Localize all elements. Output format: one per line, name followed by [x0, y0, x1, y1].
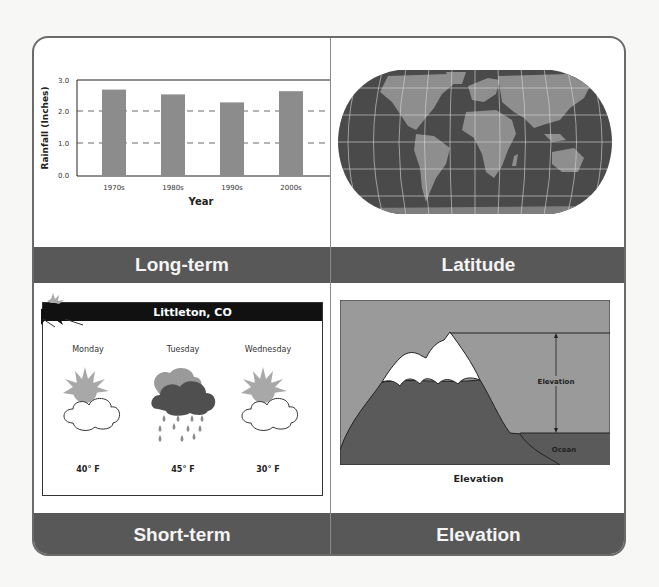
rain-cloud-icon [148, 365, 218, 445]
day-wednesday: Wednesday [228, 345, 308, 354]
temp-monday: 40° F [48, 465, 128, 474]
rainfall-bar-chart: 3.0 2.0 1.0 0.0 1970s 1980s 1990s 2000s … [34, 38, 330, 243]
partly-cloudy-icon [55, 365, 125, 445]
ytick-3: 3.0 [58, 77, 69, 85]
y-axis-label: Rainfall (Inches) [40, 87, 50, 170]
temp-wednesday: 30° F [228, 465, 308, 474]
label-long-term: Long-term [34, 247, 330, 283]
branch-sun-icon [35, 289, 95, 329]
xtick-1970s: 1970s [103, 184, 125, 192]
elevation-diagram: Elevation Ocean [340, 300, 610, 465]
ytick-0: 0.0 [58, 172, 69, 180]
label-elevation: Elevation [331, 513, 626, 556]
day-tuesday: Tuesday [143, 345, 223, 354]
world-map [338, 68, 612, 216]
x-axis-label: Year [188, 196, 214, 207]
partly-cloudy-icon [233, 365, 303, 445]
xtick-2000s: 2000s [280, 184, 302, 192]
ytick-1: 1.0 [58, 140, 69, 148]
ocean-label: Ocean [552, 446, 577, 454]
xtick-1990s: 1990s [221, 184, 243, 192]
weather-forecast: Littleton, CO Monday Tuesday Wednesday [42, 302, 323, 496]
xtick-1980s: 1980s [162, 184, 184, 192]
center-divider [330, 38, 331, 554]
label-latitude: Latitude [331, 247, 626, 283]
elevation-caption: Elevation [331, 473, 626, 484]
climate-factors-frame: 3.0 2.0 1.0 0.0 1970s 1980s 1990s 2000s … [32, 36, 626, 556]
elevation-arrow-label: Elevation [538, 378, 575, 386]
temp-tuesday: 45° F [143, 465, 223, 474]
label-short-term: Short-term [34, 513, 330, 556]
day-monday: Monday [48, 345, 128, 354]
ytick-2: 2.0 [58, 108, 69, 116]
